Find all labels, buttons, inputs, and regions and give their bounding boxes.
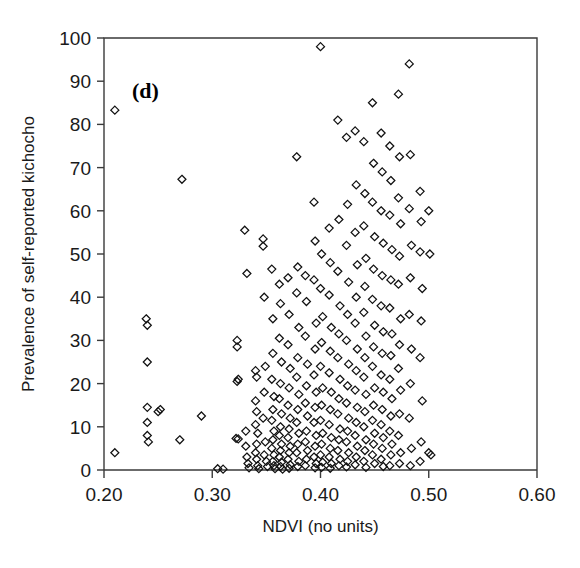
- data-point-marker: [310, 276, 318, 284]
- data-point-marker: [361, 408, 369, 416]
- data-point-marker: [344, 427, 352, 435]
- data-point-marker: [426, 250, 434, 258]
- data-point-marker: [268, 265, 276, 273]
- data-point-marker: [353, 345, 361, 353]
- data-point-marker: [352, 367, 360, 375]
- data-point-marker: [417, 438, 425, 446]
- data-point-marker: [386, 211, 394, 219]
- data-point-marker: [377, 129, 385, 137]
- data-point-marker: [284, 341, 292, 349]
- data-point-marker: [143, 358, 151, 366]
- data-point-marker: [335, 395, 343, 403]
- y-tick-label: 90: [70, 71, 91, 92]
- data-point-marker: [394, 194, 402, 202]
- data-point-marker: [318, 250, 326, 258]
- data-point-marker: [406, 151, 414, 159]
- data-point-marker: [405, 310, 413, 318]
- data-point-marker: [312, 388, 320, 396]
- data-point-marker: [353, 442, 361, 450]
- data-point-marker: [243, 269, 251, 277]
- data-point-marker: [336, 425, 344, 433]
- data-point-marker: [416, 187, 424, 195]
- data-point-marker: [407, 345, 415, 353]
- data-point-marker: [362, 332, 370, 340]
- data-point-marker: [397, 220, 405, 228]
- data-point-marker: [362, 254, 370, 262]
- y-tick-label: 0: [80, 460, 91, 481]
- y-tick-label: 20: [70, 374, 91, 395]
- data-point-marker: [418, 285, 426, 293]
- data-point-marker: [253, 440, 261, 448]
- data-point-marker: [386, 427, 394, 435]
- data-point-marker: [377, 455, 385, 463]
- data-point-marker: [275, 280, 283, 288]
- x-tick-label: 0.60: [519, 484, 556, 505]
- data-point-marker: [394, 364, 402, 372]
- x-tick-label: 0.20: [86, 484, 123, 505]
- data-point-marker: [370, 401, 378, 409]
- data-point-marker: [361, 447, 369, 455]
- data-point-marker: [377, 207, 385, 215]
- data-point-marker: [327, 323, 335, 331]
- data-point-marker: [407, 241, 415, 249]
- data-point-marker: [378, 272, 386, 280]
- data-point-marker: [259, 414, 267, 422]
- data-point-marker: [371, 460, 379, 468]
- x-tick-label: 0.30: [194, 484, 231, 505]
- data-point-marker: [405, 60, 413, 68]
- data-point-marker: [344, 200, 352, 208]
- data-point-marker: [416, 248, 424, 256]
- data-point-marker: [416, 354, 424, 362]
- data-point-marker: [397, 315, 405, 323]
- data-point-marker: [301, 272, 309, 280]
- data-point-marker: [334, 447, 342, 455]
- data-point-marker: [417, 317, 425, 325]
- data-point-marker: [326, 347, 334, 355]
- panel-label: (d): [132, 78, 159, 103]
- data-point-marker: [394, 431, 402, 439]
- data-point-marker: [379, 328, 387, 336]
- data-point-marker: [351, 431, 359, 439]
- data-point-marker: [302, 298, 310, 306]
- data-point-marker: [368, 99, 376, 107]
- data-point-marker: [252, 397, 260, 405]
- data-point-marker: [406, 380, 414, 388]
- y-tick-label: 10: [70, 417, 91, 438]
- data-point-marker: [325, 369, 333, 377]
- data-point-marker: [284, 434, 292, 442]
- data-point-marker: [317, 285, 325, 293]
- data-point-marker: [261, 362, 269, 370]
- data-point-marker: [368, 451, 376, 459]
- data-point-marker: [335, 436, 343, 444]
- data-point-marker: [370, 159, 378, 167]
- data-point-marker: [360, 308, 368, 316]
- data-point-marker: [360, 222, 368, 230]
- data-point-marker: [368, 416, 376, 424]
- data-point-marker: [371, 233, 379, 241]
- data-point-marker: [336, 375, 344, 383]
- data-point-marker: [311, 345, 319, 353]
- data-point-marker: [276, 300, 284, 308]
- data-point-marker: [361, 282, 369, 290]
- data-point-marker: [397, 449, 405, 457]
- x-tick-label: 0.40: [302, 484, 339, 505]
- data-point-marker: [342, 336, 350, 344]
- data-point-marker: [261, 438, 269, 446]
- data-point-marker: [386, 142, 394, 150]
- data-point-marker: [310, 198, 318, 206]
- data-point-marker: [325, 224, 333, 232]
- data-point-marker: [405, 414, 413, 422]
- data-point-marker: [361, 354, 369, 362]
- data-point-marker: [312, 319, 320, 327]
- y-tick-label: 100: [59, 28, 91, 49]
- data-point-marker: [406, 274, 414, 282]
- data-point-marker: [241, 226, 249, 234]
- data-point-marker: [293, 418, 301, 426]
- data-point-marker: [319, 384, 327, 392]
- data-point-marker: [293, 289, 301, 297]
- data-point-marker: [278, 358, 286, 366]
- y-tick-label: 50: [70, 244, 91, 265]
- data-point-marker: [345, 360, 353, 368]
- data-point-marker: [285, 425, 293, 433]
- data-point-marker: [302, 382, 310, 390]
